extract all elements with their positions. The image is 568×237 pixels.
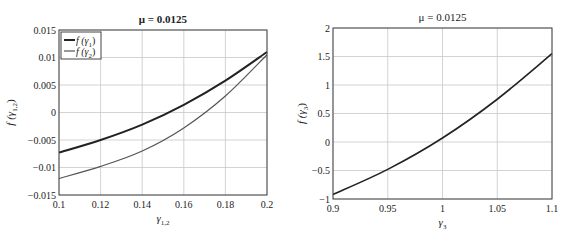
y-tick-label: 0: [325, 137, 330, 148]
x-tick-label: 1.1: [546, 203, 559, 214]
y-tick-label: −0.015: [28, 190, 56, 201]
chart-title: μ = 0.0125: [139, 13, 188, 25]
y-axis-label: f (γ1,2): [4, 99, 19, 126]
x-tick-label: 0.12: [92, 199, 110, 210]
y-tick-label: 2: [325, 23, 330, 34]
y-tick-label: 1.5: [318, 51, 331, 62]
y-tick-label: 0: [51, 107, 56, 118]
x-tick-label: 0.9: [327, 203, 340, 214]
x-tick-label: 1.05: [489, 203, 507, 214]
figure: 0.10.120.140.160.180.20.0150.010.0050−0.…: [0, 0, 568, 237]
y-tick-label: 1: [325, 80, 330, 91]
chart-title: μ = 0.0125: [419, 11, 467, 23]
y-tick-label: −0.01: [33, 162, 56, 173]
series-line: [59, 52, 267, 153]
x-tick-label: 0.14: [133, 199, 151, 210]
x-tick-label: 0.2: [261, 199, 274, 210]
chart-gamma12: 0.10.120.140.160.180.20.0150.010.0050−0.…: [4, 13, 273, 227]
y-axis-label: f (γ3): [295, 103, 310, 124]
x-tick-label: 1: [440, 203, 445, 214]
y-tick-label: −1: [319, 194, 330, 205]
x-tick-label: 0.1: [53, 199, 66, 210]
y-tick-label: 0.005: [34, 80, 57, 91]
x-tick-label: 0.95: [379, 203, 397, 214]
chart-gamma3: 0.90.9511.051.121.510.50−0.5−1μ = 0.0125…: [295, 11, 558, 231]
y-tick-label: 0.5: [318, 108, 331, 119]
x-axis-label: γ1,2: [156, 212, 170, 227]
legend: f (γ1)f (γ2): [61, 32, 101, 60]
x-tick-label: 0.16: [175, 199, 193, 210]
x-axis-label: γ3: [439, 216, 447, 231]
y-tick-label: 0.015: [34, 25, 57, 36]
y-tick-label: −0.005: [28, 135, 56, 146]
y-tick-label: −0.5: [312, 165, 330, 176]
x-tick-label: 0.18: [217, 199, 235, 210]
y-tick-label: 0.01: [39, 52, 57, 63]
